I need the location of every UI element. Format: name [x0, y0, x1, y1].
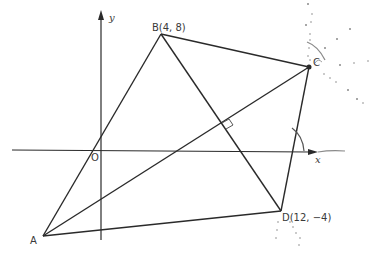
label-y-axis: y — [109, 13, 115, 23]
side-AB — [43, 34, 161, 236]
side-BC — [161, 34, 309, 67]
x-axis-tail — [318, 151, 345, 152]
label-point-d: D(12, −4) — [282, 213, 331, 223]
side-DA — [43, 211, 281, 236]
label-origin: O — [91, 153, 99, 163]
construction-marks-c — [305, 3, 369, 104]
label-point-c: C — [313, 58, 320, 68]
diagonal-BD — [161, 34, 281, 211]
side-CD — [281, 67, 309, 211]
label-point-a: A — [30, 236, 37, 246]
y-axis — [98, 10, 104, 240]
construction-marks-d — [275, 221, 301, 246]
label-x-axis: x — [315, 155, 321, 165]
label-point-b: B(4, 8) — [152, 23, 186, 33]
quadrilateral — [43, 34, 309, 236]
y-axis-arrow-icon — [98, 10, 104, 20]
point-c-dot-icon — [307, 65, 312, 70]
